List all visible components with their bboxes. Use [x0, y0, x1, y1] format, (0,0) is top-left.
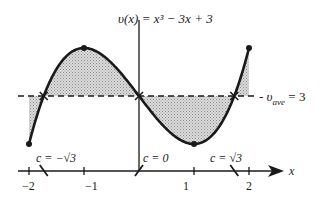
c-label-pos-sqrt3: c = √3	[210, 152, 242, 164]
tick-label-neg2: −2	[22, 180, 35, 192]
tick-label-neg1: −1	[85, 180, 98, 192]
average-value-label: - υave = 3	[259, 90, 305, 107]
tick-label-1: 1	[183, 180, 189, 192]
c-label-neg-sqrt3: c = −√3	[36, 152, 76, 164]
tick-label-2: 2	[246, 180, 252, 192]
function-title: υ(x) = x³ − 3x + 3	[118, 12, 213, 25]
c-label-zero: c = 0	[143, 152, 168, 164]
x-axis-label: x	[289, 165, 294, 177]
